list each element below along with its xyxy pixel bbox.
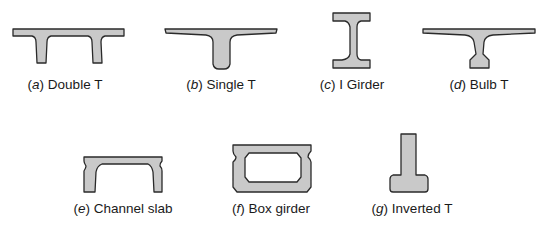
caption-letter: f xyxy=(236,201,240,216)
double-t-section-shape xyxy=(13,29,124,63)
caption-bulb-t: (d) Bulb T xyxy=(449,77,508,92)
caption-i-girder: (c) I Girder xyxy=(320,77,385,92)
caption-text: Double T xyxy=(48,77,103,92)
caption-letter: c xyxy=(324,77,331,92)
caption-text: Inverted T xyxy=(392,201,453,216)
i-girder-section-shape xyxy=(333,13,370,68)
bulb-t-section-shape xyxy=(423,29,535,68)
caption-letter: e xyxy=(78,201,86,216)
caption-letter: g xyxy=(376,201,384,216)
caption-text: Single T xyxy=(206,77,255,92)
box-girder-section-shape xyxy=(233,145,311,192)
caption-box-girder: (f) Box girder xyxy=(232,201,310,216)
caption-inverted-t: (g) Inverted T xyxy=(372,201,453,216)
girder-sections-diagram xyxy=(0,0,543,229)
single-t-section-shape xyxy=(165,29,277,69)
caption-double-t: (a) Double T xyxy=(28,77,103,92)
caption-single-t: (b) Single T xyxy=(186,77,256,92)
caption-letter: b xyxy=(191,77,199,92)
caption-letter: a xyxy=(32,77,40,92)
channel-slab-section-shape xyxy=(84,157,162,192)
caption-text: I Girder xyxy=(339,77,384,92)
caption-text: Bulb T xyxy=(470,77,509,92)
caption-channel-slab: (e) Channel slab xyxy=(73,201,172,216)
caption-text: Channel slab xyxy=(94,201,173,216)
caption-text: Box girder xyxy=(248,201,310,216)
caption-letter: d xyxy=(454,77,462,92)
inverted-t-section-shape xyxy=(390,134,428,192)
